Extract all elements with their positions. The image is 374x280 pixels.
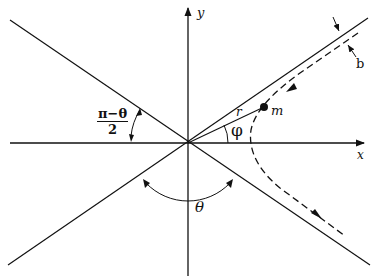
particle-label: m	[271, 104, 283, 117]
half-angle-label: π−θ 2	[97, 107, 128, 136]
particle-m	[260, 103, 268, 111]
theta-label: θ	[195, 200, 204, 215]
radius-vector	[188, 107, 264, 143]
phi-angle-arc	[224, 125, 228, 143]
y-axis-label: y	[197, 6, 204, 19]
impact-parameter-arrow-upper	[333, 17, 339, 31]
theta-arrow-left	[143, 179, 150, 188]
half-angle-denominator: 2	[97, 122, 128, 136]
half-angle-arrow-bottom	[129, 134, 134, 142]
radius-label: r	[236, 106, 242, 118]
impact-parameter-arrow-lower	[348, 45, 356, 57]
trajectory-arrow-outgoing	[311, 209, 322, 219]
scattering-diagram	[0, 0, 374, 280]
phi-label: φ	[231, 122, 243, 139]
trajectory-arrow-incoming	[286, 83, 297, 92]
impact-parameter-label: b	[356, 57, 364, 70]
trajectory-path	[250, 33, 358, 236]
x-axis-label: x	[357, 149, 364, 161]
half-angle-numerator: π−θ	[97, 107, 128, 122]
theta-arrow-right	[226, 179, 233, 188]
